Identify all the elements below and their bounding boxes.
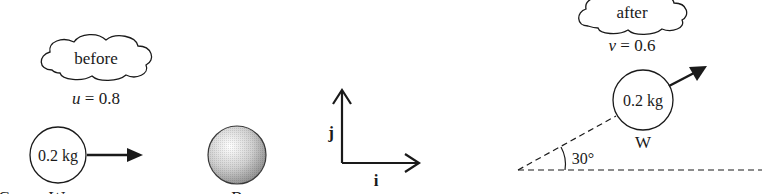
ball-w-mass: 0.2 kg: [38, 147, 78, 165]
direction-dashed-line: [518, 116, 616, 170]
ball-w-before: 0.2 kg: [30, 127, 86, 183]
ball-b-name: B: [231, 188, 242, 194]
before-cloud: before: [41, 35, 151, 81]
j-axis-label: j: [327, 123, 334, 142]
angle-label: 30°: [572, 150, 594, 167]
final-velocity-label: v = 0.6: [609, 36, 656, 55]
ball-b: [208, 126, 266, 184]
angle-arc: [561, 147, 566, 170]
before-label: before: [74, 49, 117, 68]
collision-diagram: before u = 0.8 0.2 kg W C B j i after v …: [0, 0, 762, 194]
after-cloud: after: [579, 0, 687, 34]
initial-velocity-label: u = 0.8: [72, 89, 120, 108]
after-label: after: [616, 3, 647, 22]
unit-vector-axes: j i: [327, 90, 419, 190]
ball-w-mass: 0.2 kg: [623, 92, 663, 110]
i-axis-label: i: [374, 171, 379, 190]
edge-label: C: [0, 188, 10, 194]
arrowhead-icon: [127, 148, 143, 162]
velocity-arrow-after: [669, 66, 707, 86]
ball-w-name-before: W: [49, 188, 66, 194]
velocity-arrow-before: [87, 148, 143, 162]
ball-w-after: 0.2 kg: [613, 70, 673, 130]
ball-w-name-after: W: [635, 133, 652, 152]
